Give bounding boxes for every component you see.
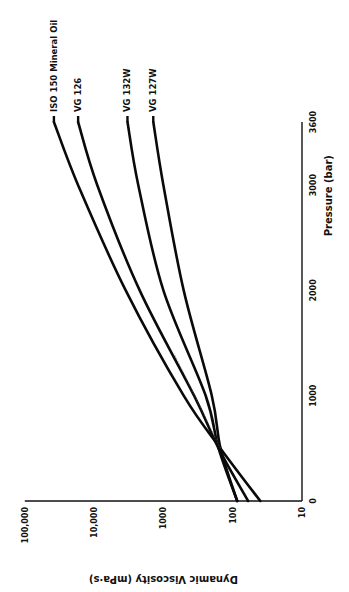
viscosity-pressure-chart: 01000200030003600 10100100010,000100,000…: [0, 0, 349, 592]
pressure-tick-label: 2000: [309, 279, 318, 302]
pressure-tick-label: 0: [309, 498, 318, 504]
data-curves: [54, 122, 260, 501]
pressure-tick-labels: 01000200030003600: [309, 110, 318, 503]
viscosity-tick-label: 100,000: [21, 507, 30, 544]
viscosity-tick-label: 1000: [159, 507, 168, 530]
pressure-axis-title: Pressure (bar): [323, 155, 334, 236]
series-labels: ISO 150 Mineral OilVG 126VG 132WVG 127W: [49, 20, 158, 122]
pressure-tick-label: 1000: [309, 384, 318, 407]
series-label-vg-127w: VG 127W: [148, 68, 158, 112]
viscosity-tick-labels: 10100100010,000100,000: [21, 507, 307, 544]
pressure-tick-label: 3600: [309, 110, 318, 133]
viscosity-tick-label: 10: [298, 507, 307, 519]
curve-iso-150-mineral-oil: [54, 122, 260, 501]
viscosity-tick-label: 10,000: [90, 507, 99, 538]
viscosity-tick-label: 100: [229, 507, 238, 524]
curve-vg-127w: [153, 122, 237, 501]
series-label-vg-132w: VG 132W: [122, 68, 132, 112]
viscosity-axis-title: Dynamic Viscosity (mPa·s): [89, 574, 238, 585]
axes: 01000200030003600 10100100010,000100,000…: [21, 110, 334, 585]
series-label-iso-150-mineral-oil: ISO 150 Mineral Oil: [49, 20, 59, 112]
series-label-vg-126: VG 126: [73, 78, 83, 112]
pressure-tick-label: 3000: [309, 174, 318, 197]
